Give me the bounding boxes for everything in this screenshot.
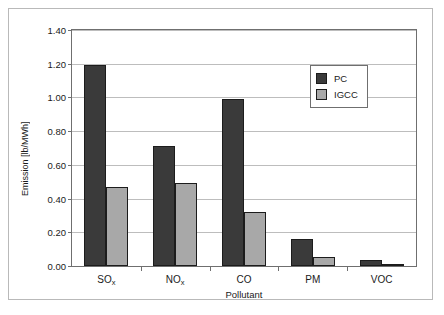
y-tick-label: 0.00: [26, 261, 66, 272]
x-tick-mark: [278, 266, 279, 271]
legend-swatch-igcc: [316, 89, 327, 100]
legend-item-pc: PC: [316, 70, 362, 86]
x-tick-label-sox: SOx: [97, 274, 115, 285]
legend-label-igcc: IGCC: [334, 89, 358, 100]
x-axis-title: Pollutant: [71, 289, 417, 300]
y-tick-mark: [68, 266, 72, 267]
x-tick-label-voc: VOC: [371, 274, 393, 285]
y-tick-label: 1.20: [26, 58, 66, 69]
legend-swatch-pc: [316, 73, 327, 84]
x-tick-mark: [141, 266, 142, 271]
bar-igcc-sox: [106, 187, 128, 266]
bar-igcc-nox: [175, 183, 197, 266]
bar-pc-sox: [84, 65, 106, 266]
plot-area: 0.000.200.400.600.801.001.201.40 SOxNOxC…: [71, 29, 417, 267]
x-tick-label-co: CO: [237, 274, 252, 285]
y-tick-label: 0.20: [26, 227, 66, 238]
bar-pc-pm: [291, 239, 313, 266]
bar-igcc-voc: [382, 264, 404, 266]
y-tick-label: 0.80: [26, 126, 66, 137]
chart-figure: Emission [lb/MWh] 0.000.200.400.600.801.…: [8, 8, 433, 300]
legend-item-igcc: IGCC: [316, 86, 362, 102]
x-tick-label-nox: NOx: [166, 274, 185, 285]
bar-igcc-co: [244, 212, 266, 266]
bar-pc-voc: [360, 260, 382, 266]
x-tick-mark: [347, 266, 348, 271]
y-tick-label: 1.40: [26, 25, 66, 36]
y-tick-label: 1.00: [26, 92, 66, 103]
bar-pc-nox: [153, 146, 175, 266]
y-tick-label: 0.60: [26, 159, 66, 170]
chart-legend: PC IGCC: [310, 65, 368, 108]
bar-igcc-pm: [313, 257, 335, 266]
legend-label-pc: PC: [334, 73, 347, 84]
bar-pc-co: [222, 99, 244, 266]
y-tick-label: 0.40: [26, 193, 66, 204]
x-tick-mark: [210, 266, 211, 271]
x-tick-label-pm: PM: [305, 274, 320, 285]
